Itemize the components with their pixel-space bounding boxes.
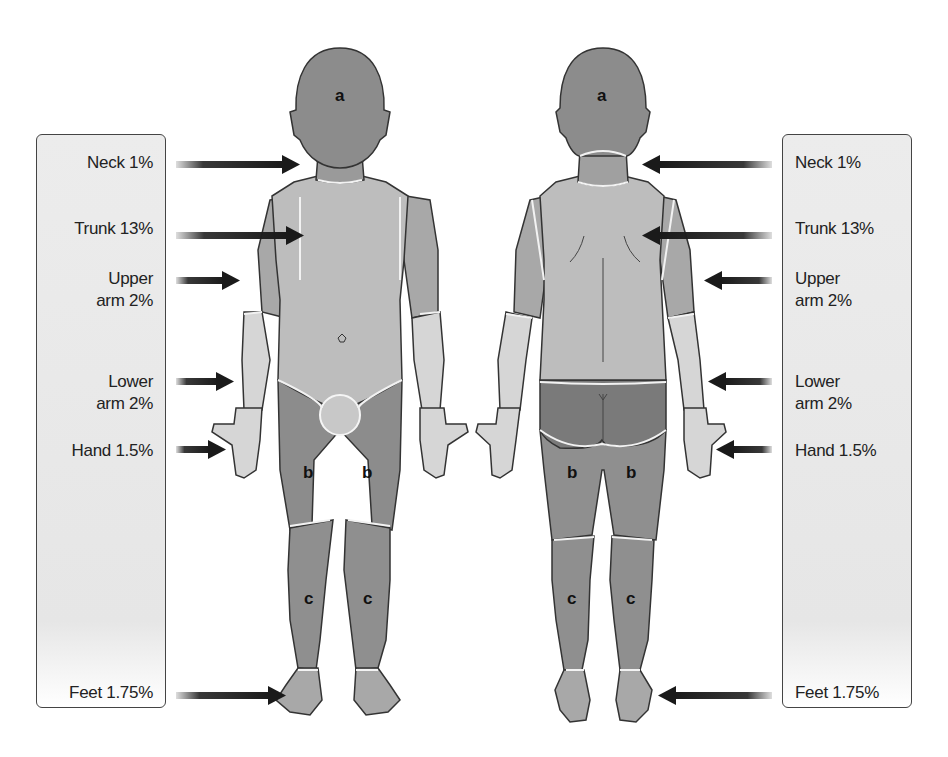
region-letter-b-front-left: b (362, 463, 372, 482)
arrow-left-icon-lower-arm (708, 372, 772, 391)
back-figure (476, 48, 726, 722)
arrow-right-icon-feet (176, 686, 286, 705)
region-letter-c-front-left: c (363, 589, 372, 608)
arrow-left-icon-feet (658, 686, 772, 705)
front-figure (212, 48, 468, 715)
arrow-right-icon-hand (176, 440, 226, 459)
arrow-left-icon-neck (642, 155, 772, 174)
arrow-left-icon-upper-arm (704, 271, 772, 290)
arrow-left-icon-hand (716, 440, 772, 459)
arrow-right-icon-lower-arm (176, 372, 234, 391)
body-diagram: a b b c c (0, 0, 948, 757)
region-letter-c-front-right: c (304, 589, 313, 608)
region-letter-c-back-right: c (626, 589, 635, 608)
arrow-right-icon-upper-arm (176, 271, 240, 290)
region-letter-a-front: a (335, 86, 345, 105)
arrow-right-icon-neck (176, 155, 300, 174)
region-letter-c-back-left: c (567, 589, 576, 608)
region-letter-b-front-right: b (303, 463, 313, 482)
region-letter-a-back: a (597, 86, 607, 105)
region-letter-b-back-right: b (626, 463, 636, 482)
region-letter-b-back-left: b (567, 463, 577, 482)
